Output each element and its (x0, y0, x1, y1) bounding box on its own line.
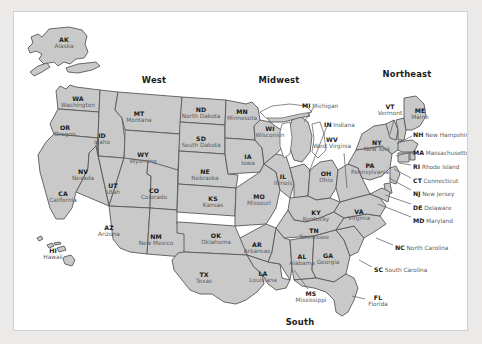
state-shape-FL[interactable] (294, 274, 358, 316)
state-shape-AK[interactable] (28, 27, 88, 66)
state-shape-RI[interactable] (410, 153, 415, 160)
leader-line-RI (399, 163, 411, 165)
us-states-map-page: WestMidwestNortheastSouthAKAlaskaHIHawai… (0, 0, 482, 344)
lake-michigan (280, 122, 292, 158)
state-shape-OK[interactable] (177, 222, 250, 255)
leader-line-NC (376, 238, 393, 245)
state-shape-OR[interactable] (50, 109, 99, 138)
state-shape-HI-bigisland (63, 255, 75, 266)
lake-huron-erie (312, 122, 326, 158)
state-shape-AZ[interactable] (109, 206, 150, 254)
state-shape-HI-maui (57, 246, 66, 252)
map-frame: WestMidwestNortheastSouthAKAlaskaHIHawai… (13, 11, 468, 331)
state-shape-CO[interactable] (147, 161, 178, 210)
state-shape-HI-oahu (47, 243, 54, 248)
state-shapes-group (28, 27, 426, 316)
state-shape-AK-aleutians (30, 63, 50, 76)
state-shape-KS[interactable] (177, 184, 236, 216)
leader-line-SC (359, 260, 372, 267)
leader-line-NJ (389, 178, 411, 190)
state-shape-WA[interactable] (56, 85, 100, 112)
state-shape-MT[interactable] (115, 92, 182, 134)
state-shape-HI-molokai (54, 242, 61, 245)
state-shape-IN[interactable] (290, 164, 310, 198)
state-shape-SD[interactable] (179, 122, 225, 154)
state-shape-HI-kauai (37, 236, 43, 241)
state-shape-AL[interactable] (290, 236, 316, 280)
state-shape-ME[interactable] (404, 96, 426, 130)
us-map-svg (14, 12, 468, 331)
state-shape-ND[interactable] (180, 97, 226, 125)
state-shape-OH[interactable] (308, 160, 338, 200)
